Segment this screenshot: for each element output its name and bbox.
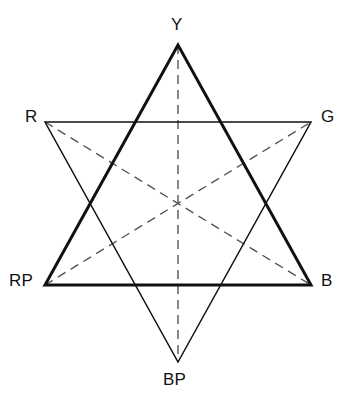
vertex-label-r: R bbox=[25, 108, 37, 125]
vertex-label-b: B bbox=[321, 272, 333, 289]
vertex-label-g: G bbox=[321, 108, 334, 125]
vertex-label-y: Y bbox=[171, 16, 183, 33]
star-diagram-figure: Y R G RP B BP bbox=[0, 0, 355, 407]
vertex-label-rp: RP bbox=[9, 272, 33, 289]
diagonal-group bbox=[45, 45, 311, 362]
vertex-label-bp: BP bbox=[163, 371, 186, 388]
star-diagram-canvas bbox=[0, 0, 355, 407]
